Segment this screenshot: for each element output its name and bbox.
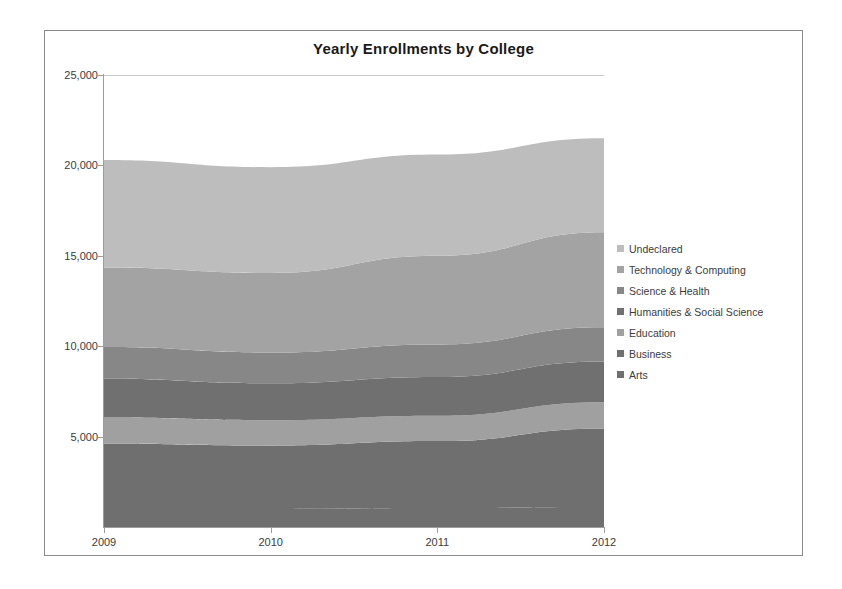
chart-page: Yearly Enrollments by College 5,00010,00… <box>0 0 842 589</box>
plot-area <box>104 75 604 527</box>
legend-item[interactable]: Education <box>617 322 799 343</box>
x-tick-label: 2011 <box>426 536 450 548</box>
legend-item[interactable]: Business <box>617 343 799 364</box>
legend-label: Undeclared <box>629 243 683 255</box>
legend-item[interactable]: Technology & Computing <box>617 259 799 280</box>
x-axis-labels: 2009201020112012 <box>0 536 842 556</box>
x-tick-mark <box>604 527 605 533</box>
x-tick-label: 2010 <box>258 536 282 548</box>
legend-swatch-icon <box>617 245 624 252</box>
y-tick-label: 20,000 <box>36 159 98 171</box>
x-axis-line <box>103 527 605 528</box>
legend-item[interactable]: Humanities & Social Science <box>617 301 799 322</box>
legend-item[interactable]: Undeclared <box>617 238 799 259</box>
legend-swatch-icon <box>617 308 624 315</box>
x-tick-label: 2009 <box>92 536 116 548</box>
legend-item[interactable]: Science & Health <box>617 280 799 301</box>
legend-label: Education <box>629 327 676 339</box>
legend-swatch-icon <box>617 266 624 273</box>
legend-swatch-icon <box>617 329 624 336</box>
x-tick-mark <box>271 527 272 533</box>
legend-label: Arts <box>629 369 648 381</box>
legend-label: Science & Health <box>629 285 710 297</box>
top-gridline <box>104 75 604 76</box>
legend-label: Technology & Computing <box>629 264 746 276</box>
legend-label: Humanities & Social Science <box>629 306 763 318</box>
chart-title: Yearly Enrollments by College <box>44 40 803 57</box>
x-tick-mark <box>437 527 438 533</box>
legend-swatch-icon <box>617 287 624 294</box>
legend-item[interactable]: Arts <box>617 364 799 385</box>
stacked-area-svg <box>104 75 604 527</box>
y-tick-label: 25,000 <box>36 69 98 81</box>
chart-legend: UndeclaredTechnology & ComputingScience … <box>617 238 799 385</box>
x-tick-mark <box>104 527 105 533</box>
area-band <box>104 507 604 527</box>
legend-label: Business <box>629 348 672 360</box>
y-tick-label: 5,000 <box>36 431 98 443</box>
legend-swatch-icon <box>617 350 624 357</box>
legend-swatch-icon <box>617 371 624 378</box>
y-tick-label: 10,000 <box>36 340 98 352</box>
y-tick-label: 15,000 <box>36 250 98 262</box>
y-axis-labels: 5,00010,00015,00020,00025,000 <box>30 0 98 589</box>
x-tick-label: 2012 <box>592 536 616 548</box>
